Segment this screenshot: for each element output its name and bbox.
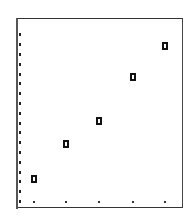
y-tick (19, 63, 21, 66)
y-tick (19, 43, 21, 46)
y-tick (19, 73, 21, 76)
x-tick (65, 201, 67, 203)
y-tick (19, 200, 21, 203)
data-point-marker (162, 42, 168, 50)
x-tick (132, 201, 134, 203)
plot-frame (16, 18, 183, 208)
y-tick (19, 161, 21, 164)
y-axis-line (16, 18, 18, 209)
x-tick (33, 201, 35, 203)
y-tick (19, 92, 21, 95)
y-tick (19, 102, 21, 105)
y-tick (19, 141, 21, 144)
y-tick (19, 82, 21, 85)
y-tick (19, 180, 21, 183)
y-tick (19, 122, 21, 125)
data-point-marker (96, 117, 102, 125)
data-point-marker (130, 73, 136, 81)
data-point-marker (31, 175, 37, 183)
x-tick (98, 201, 100, 203)
y-tick (19, 171, 21, 174)
y-tick (19, 53, 21, 56)
y-tick (19, 190, 21, 193)
y-tick (19, 131, 21, 134)
x-tick (164, 201, 166, 203)
data-point-marker (63, 140, 69, 148)
y-tick (19, 112, 21, 115)
y-tick (19, 33, 21, 36)
y-tick (19, 151, 21, 154)
